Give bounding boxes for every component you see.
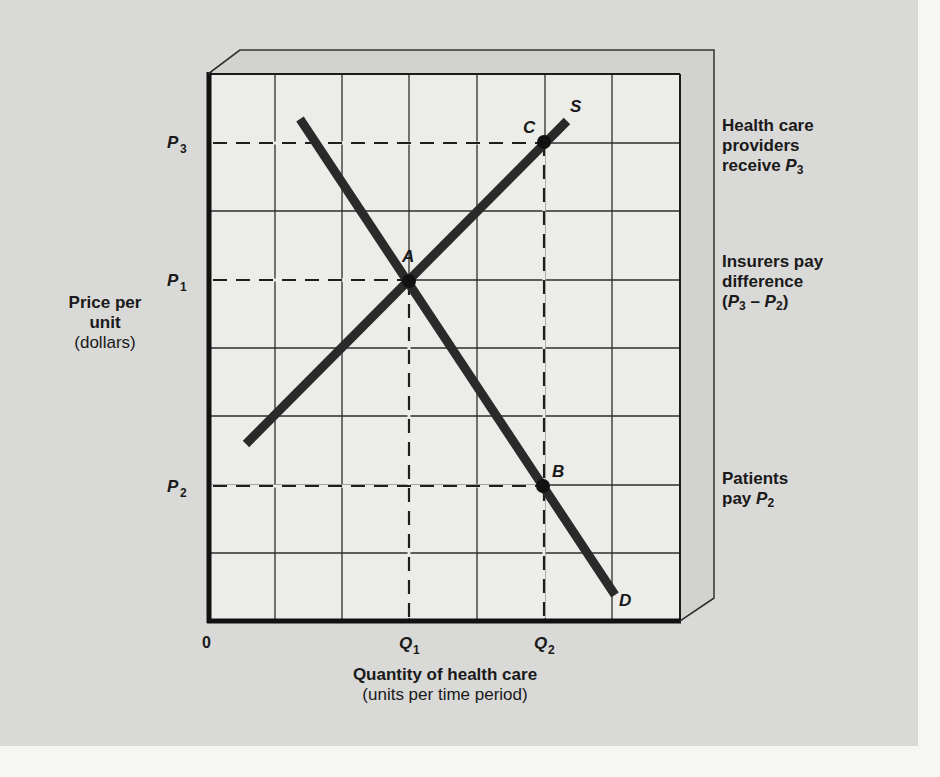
y-axis-title-line2: unit xyxy=(40,313,170,333)
x-axis-title: Quantity of health care (units per time … xyxy=(300,665,590,705)
y-tick-p1: P 1 xyxy=(167,271,187,294)
annotation-providers-line3: receive P3 xyxy=(722,156,814,176)
y-axis-title: Price per unit (dollars) xyxy=(40,293,170,353)
annotation-insurers-line1: Insurers pay xyxy=(722,252,823,272)
svg-text:3: 3 xyxy=(180,142,187,156)
x-axis-subtitle: (units per time period) xyxy=(300,685,590,705)
annotation-insurers: Insurers pay difference (P3 – P2) xyxy=(722,252,823,312)
y-axis-subtitle: (dollars) xyxy=(40,333,170,353)
annotation-patients-line1: Patients xyxy=(722,469,788,489)
svg-text:1: 1 xyxy=(413,643,420,657)
svg-text:P: P xyxy=(167,271,179,290)
label-s: S xyxy=(570,97,582,116)
label-d: D xyxy=(619,591,631,610)
svg-text:P: P xyxy=(167,133,179,152)
annotation-patients-line2: pay P2 xyxy=(722,489,788,509)
y-tick-p2: P 2 xyxy=(167,477,187,500)
y-axis-title-line1: Price per xyxy=(40,293,170,313)
origin-label: 0 xyxy=(202,634,211,651)
y-tick-p3: P 3 xyxy=(167,133,187,156)
svg-text:P: P xyxy=(167,477,179,496)
point-b xyxy=(536,479,550,493)
x-axis-title-main: Quantity of health care xyxy=(300,665,590,685)
svg-text:1: 1 xyxy=(180,280,187,294)
point-c xyxy=(537,135,551,149)
annotation-patients: Patients pay P2 xyxy=(722,469,788,509)
svg-text:2: 2 xyxy=(548,643,555,657)
svg-text:Q: Q xyxy=(399,634,412,653)
label-b: B xyxy=(552,462,564,481)
label-a: A xyxy=(401,247,414,266)
annotation-insurers-line3: (P3 – P2) xyxy=(722,292,823,312)
annotation-providers-line2: providers xyxy=(722,136,814,156)
x-tick-q1: Q 1 xyxy=(399,634,420,657)
svg-text:Q: Q xyxy=(534,634,547,653)
annotation-insurers-line2: difference xyxy=(722,272,823,292)
label-c: C xyxy=(523,118,536,137)
x-tick-q2: Q 2 xyxy=(534,634,555,657)
svg-text:2: 2 xyxy=(180,486,187,500)
point-a xyxy=(402,274,416,288)
annotation-providers: Health care providers receive P3 xyxy=(722,116,814,176)
annotation-providers-line1: Health care xyxy=(722,116,814,136)
